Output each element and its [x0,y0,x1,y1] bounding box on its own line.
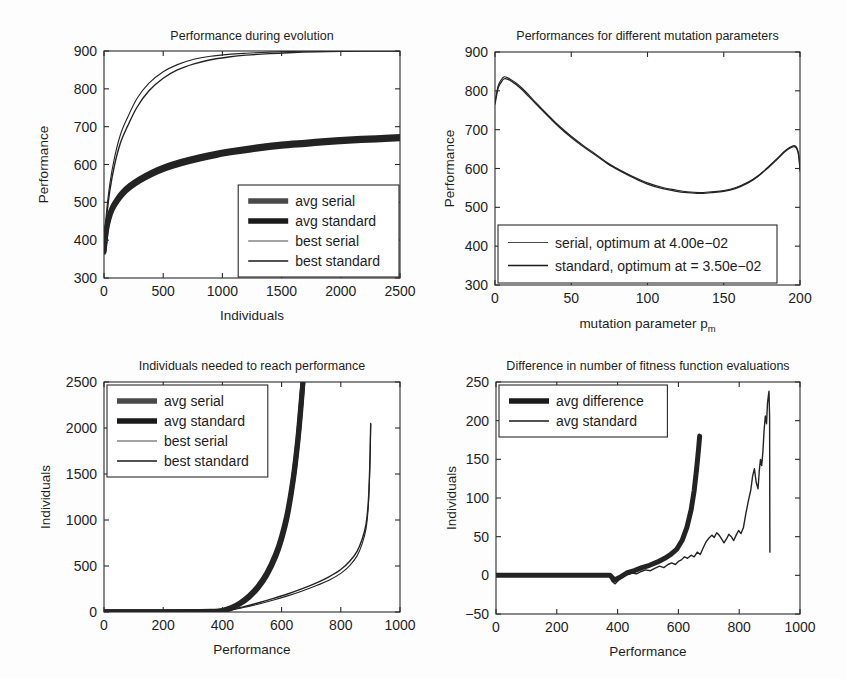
legend-label: avg serial [164,393,224,409]
x-tick-label: 0 [492,619,500,635]
x-tick-label: 400 [606,619,630,635]
x-tick-label: 200 [152,617,176,633]
y-axis-label: Performance [442,130,457,207]
y-tick-label: 1000 [66,512,97,528]
y-tick-label: 600 [74,157,98,173]
y-tick-label: −50 [465,606,489,622]
y-tick-label: 200 [466,413,490,429]
y-tick-label: 500 [465,199,489,215]
y-tick-label: 0 [89,604,97,620]
y-tick-label: 2500 [66,374,97,390]
panel-difference-fitness-evaluations: Difference in number of fitness function… [430,352,840,672]
x-axis-label: Performance [213,642,290,657]
y-tick-label: 700 [465,122,489,138]
y-axis-label: Individuals [444,466,459,530]
y-tick-label: 1500 [66,466,97,482]
chart-performances-mutation-parameters[interactable]: Performances for different mutation para… [430,20,840,350]
y-tick-label: 500 [74,558,98,574]
legend-label: avg standard [295,213,376,229]
x-tick-label: 800 [728,619,752,635]
chart-legend[interactable]: avg differenceavg standard [499,385,667,437]
legend-label: serial, optimum at 4.00e−02 [555,235,728,251]
x-axis-label: Performance [609,644,686,659]
y-tick-label: 50 [473,529,489,545]
y-tick-label: 0 [481,567,489,583]
x-axis-label: mutation parameter pm [579,316,715,334]
legend-label: best serial [164,433,228,449]
y-axis-label: Performance [36,126,51,203]
x-tick-label: 600 [667,619,691,635]
y-tick-label: 900 [465,44,489,60]
x-tick-label: 500 [152,283,176,299]
legend-label: best standard [164,453,249,469]
x-tick-label: 800 [329,617,353,633]
x-tick-label: 1000 [784,619,815,635]
chart-performance-during-evolution[interactable]: Performance during evolution050010001500… [20,20,430,350]
chart-difference-fitness-function-evaluations[interactable]: Difference in number of fitness function… [430,352,840,672]
y-tick-label: 400 [465,238,489,254]
x-tick-label: 100 [636,290,660,306]
x-tick-label: 1500 [266,283,297,299]
matlab-figure-canvas: Performance during evolution050010001500… [0,0,847,679]
x-tick-label: 1000 [207,283,238,299]
y-tick-label: 300 [465,277,489,293]
x-tick-label: 400 [211,617,235,633]
panel-individuals-needed: Individuals needed to reach performance0… [20,352,430,672]
chart-title: Difference in number of fitness function… [506,359,789,373]
legend-label: best standard [295,253,380,269]
x-tick-label: 2000 [325,283,356,299]
chart-individuals-needed-to-reach-performance[interactable]: Individuals needed to reach performance0… [20,352,430,672]
y-tick-label: 2000 [66,420,97,436]
legend-label: standard, optimum at = 3.50e−02 [555,258,761,274]
x-tick-label: 0 [100,283,108,299]
y-tick-label: 250 [466,374,490,390]
y-tick-label: 700 [74,119,98,135]
chart-title: Performance during evolution [170,29,333,43]
x-tick-label: 2500 [384,283,415,299]
y-tick-label: 300 [74,270,98,286]
y-tick-label: 400 [74,232,98,248]
y-tick-label: 900 [74,43,98,59]
panel-performance-during-evolution: Performance during evolution050010001500… [20,20,430,350]
x-tick-label: 600 [270,617,294,633]
legend-label: avg difference [556,393,644,409]
y-tick-label: 150 [466,451,490,467]
y-axis-label: Individuals [38,465,53,529]
panel-performances-mutation-parameters: Performances for different mutation para… [430,20,840,350]
legend-label: avg standard [164,413,245,429]
chart-legend[interactable]: serial, optimum at 4.00e−02standard, opt… [498,225,777,283]
x-axis-label: Individuals [220,308,284,323]
chart-legend[interactable]: avg serialavg standardbest serialbest st… [238,185,399,277]
x-tick-label: 1000 [384,617,415,633]
x-tick-label: 50 [563,290,579,306]
legend-label: best serial [295,233,359,249]
y-tick-label: 500 [74,194,98,210]
chart-legend[interactable]: avg serialavg standardbest serialbest st… [107,385,268,477]
y-tick-label: 600 [465,161,489,177]
y-tick-label: 800 [465,83,489,99]
x-tick-label: 150 [712,290,736,306]
x-axis-label-subscript: m [708,323,716,334]
x-tick-label: 0 [100,617,108,633]
x-tick-label: 200 [545,619,569,635]
y-tick-label: 800 [74,81,98,97]
y-tick-label: 100 [466,490,490,506]
x-tick-label: 200 [788,290,812,306]
x-tick-label: 0 [491,290,499,306]
legend-label: avg standard [556,413,637,429]
legend-label: avg serial [295,193,355,209]
chart-title: Individuals needed to reach performance [139,359,366,373]
chart-title: Performances for different mutation para… [516,29,778,43]
